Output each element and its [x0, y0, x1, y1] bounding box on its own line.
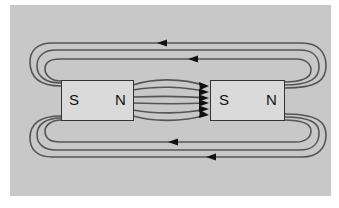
arrow-left-icon — [157, 40, 167, 47]
arrow-right-icon — [199, 110, 209, 118]
center-line-6 — [133, 115, 206, 120]
left-magnet-south-pole: S — [69, 92, 79, 107]
arrow-right-icon — [199, 82, 209, 90]
right-magnet: S N — [210, 80, 285, 121]
arrow-left-icon — [168, 139, 178, 146]
left-magnet: S N — [61, 80, 134, 121]
right-magnet-north-pole: N — [266, 92, 277, 107]
top-loop-inner — [45, 59, 311, 82]
arrow-right-icon — [199, 89, 209, 96]
center-line-1 — [133, 80, 206, 86]
center-line-5 — [133, 109, 206, 113]
field-lines — [0, 0, 339, 208]
center-line-2 — [133, 87, 206, 92]
arrow-left-icon — [206, 154, 216, 161]
arrow-right-icon — [199, 100, 209, 107]
left-magnet-north-pole: N — [115, 92, 126, 107]
center-line-4 — [133, 103, 206, 104]
center-line-3 — [133, 96, 206, 98]
arrow-left-icon — [188, 56, 198, 63]
right-magnet-south-pole: S — [219, 92, 229, 107]
